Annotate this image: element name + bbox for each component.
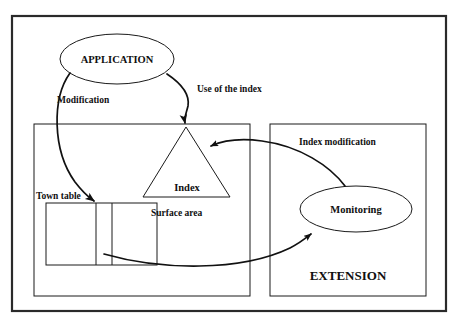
edge-use-of-the-index — [167, 74, 188, 123]
extension-label: EXTENSION — [310, 268, 387, 283]
monitoring-label: Monitoring — [330, 204, 382, 215]
edge-table-to-monitoring — [104, 234, 311, 266]
index-modification-label: Index modification — [299, 137, 377, 147]
modification-label: Modification — [57, 95, 110, 105]
edge-modification — [57, 73, 94, 201]
surface-area-label: Surface area — [151, 208, 203, 218]
diagram-canvas: APPLICATION Modification Use of the inde… — [0, 0, 460, 327]
town-table-label: Town table — [36, 191, 81, 201]
town-table-shape — [46, 203, 157, 265]
application-label: APPLICATION — [81, 54, 154, 65]
index-label: Index — [174, 182, 200, 193]
outer-frame — [12, 16, 446, 311]
diagram-svg: APPLICATION Modification Use of the inde… — [0, 0, 460, 327]
left-container-box — [34, 124, 250, 296]
use-of-the-index-label: Use of the index — [197, 84, 262, 94]
